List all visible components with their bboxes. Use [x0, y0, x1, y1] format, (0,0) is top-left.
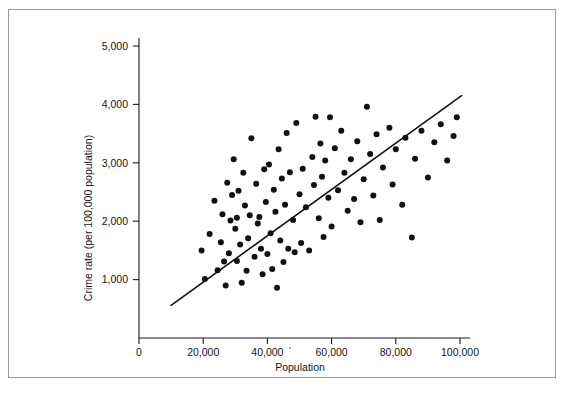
- data-point: [327, 114, 333, 120]
- data-point: [280, 259, 286, 265]
- data-point: [348, 156, 354, 162]
- data-point: [285, 246, 291, 252]
- x-tick-label: 100,000: [441, 346, 479, 358]
- data-point: [313, 114, 319, 120]
- data-point: [239, 280, 245, 286]
- data-point: [224, 180, 230, 186]
- data-point: [361, 176, 367, 182]
- data-point: [229, 192, 235, 198]
- y-tick-label: 1,000: [102, 273, 128, 285]
- data-point: [219, 211, 225, 217]
- data-point: [266, 162, 272, 168]
- data-point: [335, 187, 341, 193]
- data-point: [451, 133, 457, 139]
- data-point: [223, 282, 229, 288]
- data-point: [364, 104, 370, 110]
- data-point: [242, 202, 248, 208]
- data-point: [319, 174, 325, 180]
- data-point: [277, 237, 283, 243]
- data-point: [438, 121, 444, 127]
- y-tick-label: 3,000: [102, 157, 128, 169]
- x-tick-group: [139, 338, 460, 344]
- chart-canvas: 020,00040,00060,00080,000100,000 1,0002,…: [0, 0, 570, 396]
- y-tick-group: [133, 46, 139, 280]
- data-point: [227, 218, 233, 224]
- data-point: [354, 138, 360, 144]
- scatter-plot: 020,00040,00060,00080,000100,000 1,0002,…: [0, 0, 570, 396]
- data-point: [218, 239, 224, 245]
- x-tick-label: 80,000: [380, 346, 412, 358]
- data-point: [231, 156, 237, 162]
- data-point: [236, 188, 242, 194]
- data-point: [311, 182, 317, 188]
- y-tick-label-group: 1,0002,0003,0004,0005,000: [102, 40, 128, 286]
- data-point: [321, 234, 327, 240]
- x-axis-title: Population: [275, 361, 325, 373]
- y-tick-label: 4,000: [102, 98, 128, 110]
- data-point: [287, 169, 293, 175]
- data-point-group: [199, 104, 460, 291]
- data-point: [248, 135, 254, 141]
- data-point: [341, 170, 347, 176]
- data-point: [380, 164, 386, 170]
- data-point: [367, 151, 373, 157]
- data-point: [454, 114, 460, 120]
- data-point: [252, 254, 258, 260]
- data-point: [386, 125, 392, 131]
- data-point: [269, 266, 275, 272]
- y-tick-label: 2,000: [102, 215, 128, 227]
- data-point: [325, 195, 331, 201]
- data-point: [258, 246, 264, 252]
- data-point: [284, 130, 290, 136]
- data-point: [226, 250, 232, 256]
- data-point: [390, 181, 396, 187]
- data-point: [399, 202, 405, 208]
- data-point: [300, 166, 306, 172]
- data-point: [322, 157, 328, 163]
- data-point: [245, 235, 251, 241]
- data-point: [244, 268, 250, 274]
- x-tick-label-group: 020,00040,00060,00080,000100,000: [136, 346, 479, 358]
- data-point: [431, 139, 437, 145]
- data-point: [338, 128, 344, 134]
- x-tick-label: 0: [136, 346, 142, 358]
- data-point: [255, 221, 261, 227]
- x-tick-label: 60,000: [316, 346, 348, 358]
- data-point: [425, 174, 431, 180]
- data-point: [271, 187, 277, 193]
- data-point: [237, 242, 243, 248]
- scan-speck: [289, 347, 291, 349]
- data-point: [306, 247, 312, 253]
- data-point: [297, 191, 303, 197]
- data-point: [253, 181, 259, 187]
- x-tick-label: 40,000: [251, 346, 283, 358]
- data-point: [329, 223, 335, 229]
- data-point: [316, 215, 322, 221]
- data-point: [234, 215, 240, 221]
- data-point: [351, 196, 357, 202]
- y-tick-label: 5,000: [102, 40, 128, 52]
- x-tick-label: 20,000: [187, 346, 219, 358]
- data-point: [221, 259, 227, 265]
- figure-container: 020,00040,00060,00080,000100,000 1,0002,…: [0, 0, 570, 396]
- data-point: [274, 285, 280, 291]
- data-point: [199, 247, 205, 253]
- data-point: [293, 120, 299, 126]
- y-axis-title: Crime rate (per 100,000 population): [82, 135, 94, 301]
- data-point: [260, 271, 266, 277]
- data-point: [345, 208, 351, 214]
- data-point: [374, 131, 380, 137]
- data-point: [240, 170, 246, 176]
- data-point: [261, 166, 267, 172]
- data-point: [232, 226, 238, 232]
- data-point: [377, 217, 383, 223]
- data-point: [418, 128, 424, 134]
- data-point: [317, 141, 323, 147]
- data-point: [409, 235, 415, 241]
- data-point: [412, 156, 418, 162]
- data-point: [357, 219, 363, 225]
- data-point: [279, 176, 285, 182]
- data-point: [211, 198, 217, 204]
- data-point: [247, 212, 253, 218]
- data-point: [256, 214, 262, 220]
